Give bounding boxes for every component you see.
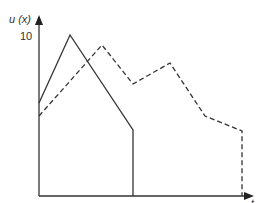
y-axis-arrow-icon	[35, 15, 43, 25]
chart-canvas	[0, 0, 271, 203]
y-axis-label: u (x)	[9, 13, 31, 25]
x-axis-label: t	[251, 198, 254, 203]
y-tick-10: 10	[20, 30, 32, 42]
series-dashed	[39, 45, 242, 196]
series-solid	[39, 35, 133, 196]
